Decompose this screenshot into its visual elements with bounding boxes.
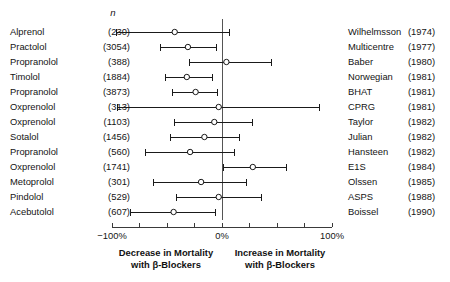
point-estimate-marker <box>216 194 221 199</box>
point-estimate-marker <box>216 104 221 109</box>
study-row-marker <box>118 104 320 111</box>
study-row-marker <box>189 59 272 66</box>
study-row-marker <box>170 134 239 141</box>
point-estimate-marker <box>198 179 203 184</box>
point-estimate-marker <box>185 44 190 49</box>
study-row-marker <box>177 194 262 201</box>
increase-caption: Increase in Mortality <box>224 247 336 259</box>
point-estimate-marker <box>250 164 255 169</box>
study-row-marker <box>116 29 229 36</box>
study-row-marker <box>131 209 216 216</box>
point-estimate-marker <box>193 89 198 94</box>
decrease-caption-line2: with β-Blockers <box>110 259 222 271</box>
study-row-marker <box>160 44 216 51</box>
forest-plot: nAlprenol(230)Wilhelmsson(1974)Practolol… <box>0 0 450 282</box>
study-row-marker <box>175 119 253 126</box>
point-estimate-marker <box>212 119 217 124</box>
x-axis-label-zero: 0% <box>192 231 252 241</box>
study-row-marker <box>154 179 246 186</box>
study-row-marker <box>173 89 218 96</box>
point-estimate-marker <box>187 149 192 154</box>
x-axis-label-max: 100% <box>302 231 362 241</box>
point-estimate-marker <box>202 134 207 139</box>
decrease-caption: Decrease in Mortality <box>110 247 222 259</box>
point-estimate-marker <box>224 59 229 64</box>
point-estimate-marker <box>184 74 189 79</box>
study-row-marker <box>223 164 287 171</box>
x-axis-label-min: −100% <box>82 231 142 241</box>
study-row-marker <box>166 74 212 81</box>
study-row-marker <box>145 149 234 156</box>
increase-caption-line2: with β-Blockers <box>224 259 336 271</box>
point-estimate-marker <box>171 209 176 214</box>
point-estimate-marker <box>172 29 177 34</box>
